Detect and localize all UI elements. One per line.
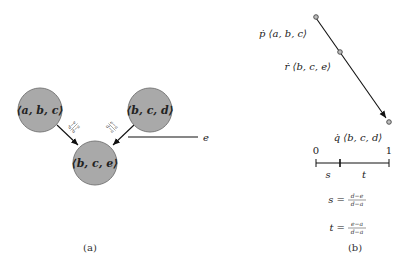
svg-text:e−a: e−a [351, 220, 364, 227]
svg-text:d−a: d−a [351, 200, 364, 207]
point-r [338, 50, 343, 55]
number-line-start: 0 [313, 145, 319, 156]
svg-text:t =: t = [329, 222, 345, 233]
label-r: ṙ ⟨b, c, e⟩ [285, 61, 331, 72]
node-bce: ⟨b, c, e⟩ [72, 141, 119, 185]
cut-line-label: e [203, 132, 209, 143]
panel-a: e d−e d−a e−a d−a ⟨a, b, c⟩ ⟨b, c, d⟩ ⟨b… [17, 88, 209, 253]
label-q: q̇ ⟨b, c, d⟩ [334, 132, 383, 143]
point-p [314, 15, 319, 20]
svg-text:⟨a, b, c⟩: ⟨a, b, c⟩ [17, 104, 64, 117]
point-q [387, 120, 392, 125]
formula-s: s = d−e d−a [328, 192, 366, 207]
label-p: ṗ ⟨a, b, c⟩ [259, 28, 307, 39]
edge-label-left: d−e d−a [67, 120, 81, 134]
panel-b: ṗ ⟨a, b, c⟩ ṙ ⟨b, c, e⟩ q̇ ⟨b, c, d⟩ 0 1… [259, 15, 392, 253]
svg-text:s =: s = [328, 194, 345, 205]
svg-text:⟨b, c, d⟩: ⟨b, c, d⟩ [126, 104, 173, 117]
edge-label-right: e−a d−a [105, 120, 119, 134]
formula-t: t = e−a d−a [329, 220, 366, 235]
segment-t-label: t [362, 169, 367, 180]
caption-b: (b) [348, 242, 362, 253]
svg-text:d−e: d−e [351, 192, 364, 199]
figure-canvas: e d−e d−a e−a d−a ⟨a, b, c⟩ ⟨b, c, d⟩ ⟨b… [0, 0, 407, 268]
number-line-end: 1 [386, 145, 392, 156]
number-line: 0 1 s t [313, 145, 392, 180]
caption-a: (a) [83, 242, 97, 253]
svg-text:⟨b, c, e⟩: ⟨b, c, e⟩ [72, 157, 119, 170]
node-abc: ⟨a, b, c⟩ [17, 88, 64, 132]
svg-text:d−a: d−a [351, 228, 364, 235]
segment-s-label: s [325, 169, 330, 180]
